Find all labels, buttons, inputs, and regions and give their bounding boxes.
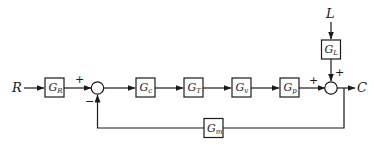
sum1-minus-sign: − (85, 95, 94, 108)
block-gr: GR (45, 78, 64, 97)
block-gv: Gv (232, 78, 251, 97)
block-gm: Gm (204, 119, 223, 138)
block-gp: Gp (280, 78, 299, 97)
block-gc: Gc (136, 78, 155, 97)
block-gt: GT (184, 78, 203, 97)
sum2-plus-left-sign: + (309, 74, 318, 87)
disturbance-label-l: L (325, 6, 335, 21)
input-label-r: R (11, 80, 22, 95)
sum2-plus-top-sign: + (335, 66, 344, 79)
summing-junction-1 (91, 82, 103, 94)
sum1-plus-sign: + (75, 73, 84, 86)
block-gl: GL (322, 40, 341, 59)
block-diagram: R GR + − Gc GT Gv Gp + L GL + (0, 0, 374, 151)
output-label-c: C (357, 80, 367, 95)
summing-junction-2 (325, 82, 337, 94)
feedback-line-left (98, 95, 205, 128)
